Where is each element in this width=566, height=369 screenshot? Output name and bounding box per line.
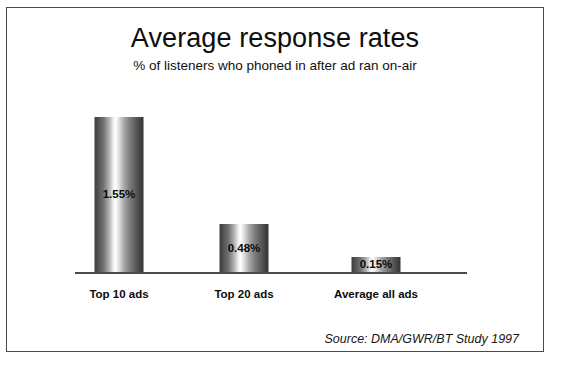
bar-group-top-20-ads: 0.48% Top 20 ads <box>194 8 294 351</box>
category-label-top-20-ads: Top 20 ads <box>194 287 294 301</box>
bar-value-label: 0.15% <box>352 258 401 271</box>
bar-top-10-ads[interactable]: 1.55% <box>95 117 144 272</box>
bar-group-top-10-ads: 1.55% Top 10 ads <box>69 8 169 351</box>
chart-plot-area: 1.55% Top 10 ads 0.48% Top 20 ads 0.15% … <box>7 8 543 351</box>
bar-average-all-ads[interactable]: 0.15% <box>352 257 401 272</box>
bar-group-average-all-ads: 0.15% Average all ads <box>326 8 426 351</box>
bar-value-label: 0.48% <box>220 242 269 255</box>
category-label-top-10-ads: Top 10 ads <box>69 287 169 301</box>
bar-top-20-ads[interactable]: 0.48% <box>220 224 269 272</box>
category-label-average-all-ads: Average all ads <box>326 287 426 301</box>
slide-frame: Average response rates % of listeners wh… <box>6 7 544 352</box>
source-attribution: Source: DMA/GWR/BT Study 1997 <box>324 331 519 347</box>
bar-value-label: 1.55% <box>95 188 144 201</box>
